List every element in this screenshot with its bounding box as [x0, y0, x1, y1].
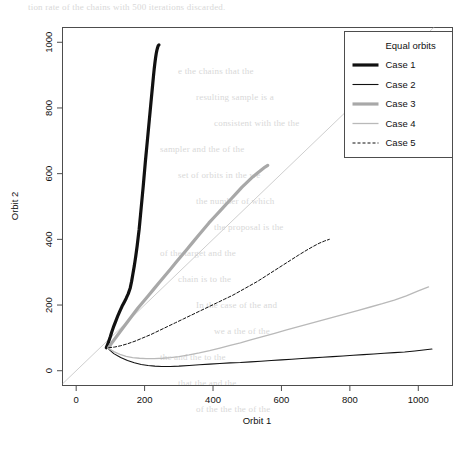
- legend-label-equal-orbits[interactable]: Equal orbits: [386, 40, 436, 51]
- y-axis-title: Orbit 2: [9, 192, 20, 221]
- legend-label-case-1[interactable]: Case 1: [386, 59, 416, 70]
- orbit-scatter-plot: 02004006008001000 02004006008001000 Orbi…: [0, 0, 475, 455]
- legend-label-case-3[interactable]: Case 3: [386, 98, 416, 109]
- x-axis: 02004006008001000: [74, 386, 429, 405]
- chart-legend[interactable]: Equal orbitsCase 1Case 2Case 3Case 4Case…: [345, 32, 453, 158]
- series-line-case-1: [106, 45, 159, 348]
- legend-label-case-2[interactable]: Case 2: [386, 79, 416, 90]
- y-tick-label: 1000: [43, 32, 54, 53]
- y-tick-label: 600: [43, 166, 54, 182]
- series-line-case-2: [109, 349, 432, 366]
- x-axis-title: Orbit 1: [243, 415, 272, 426]
- x-tick-label: 600: [274, 394, 290, 405]
- legend-label-case-5[interactable]: Case 5: [386, 137, 416, 148]
- y-axis: 02004006008001000: [43, 32, 63, 374]
- y-tick-label: 400: [43, 231, 54, 247]
- x-tick-label: 400: [205, 394, 221, 405]
- chart-figure: tion rate of the chains with 500 iterati…: [0, 0, 475, 455]
- series-line-case-3: [109, 165, 268, 347]
- x-tick-label: 200: [137, 394, 153, 405]
- series-line-case-5: [109, 239, 330, 347]
- y-tick-label: 0: [43, 368, 54, 373]
- legend-label-case-4[interactable]: Case 4: [386, 118, 416, 129]
- series-line-case-4: [109, 287, 429, 359]
- x-tick-label: 800: [342, 394, 358, 405]
- y-tick-label: 200: [43, 297, 54, 313]
- x-tick-label: 1000: [408, 394, 429, 405]
- y-tick-label: 800: [43, 100, 54, 116]
- x-tick-label: 0: [74, 394, 79, 405]
